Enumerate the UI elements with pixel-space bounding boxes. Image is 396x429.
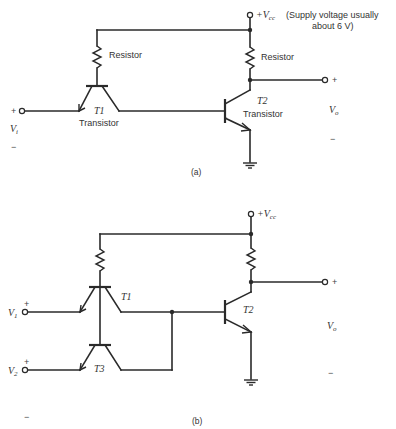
ground-icon: [243, 163, 257, 168]
input1-plus: +: [24, 299, 29, 309]
t3-name-b: T3: [94, 363, 105, 374]
resistor-left-label-a: Resistor: [109, 50, 142, 60]
v2-label: V2: [8, 365, 18, 378]
resistor-left-b: [96, 234, 104, 345]
output-minus-a: −: [330, 134, 335, 144]
vi-label: Vi: [10, 123, 18, 136]
circuit-diagram: +Vcc (Supply voltage usually about 6 V) …: [0, 0, 396, 429]
vcc-label-b: +Vcc: [257, 208, 277, 221]
t1-name-b: T1: [121, 291, 132, 302]
t2-desc-a: Transistor: [243, 109, 283, 119]
input-minus-b: −: [24, 412, 29, 422]
input2-terminal: [22, 367, 27, 372]
input1-terminal: [22, 309, 27, 314]
supply-note-line1: (Supply voltage usually: [286, 10, 379, 20]
t1-desc-a: Transistor: [79, 118, 119, 128]
vo-label-a: Vo: [329, 104, 339, 117]
figure-a: +Vcc (Supply voltage usually about 6 V) …: [10, 9, 379, 177]
vcc-terminal-a: [247, 12, 252, 17]
output-terminal-a: [322, 77, 327, 82]
input-minus-a: −: [11, 142, 16, 152]
vcc-terminal-b: [248, 211, 253, 216]
figure-b: +Vcc T1 T3 T2 + V1 + V2 − + Vo − (b): [8, 208, 337, 426]
t2-name-b: T2: [243, 304, 254, 315]
output-plus-a: +: [332, 75, 337, 85]
v1-label: V1: [8, 307, 18, 320]
output-plus-b: +: [332, 277, 337, 287]
output-minus-b: −: [328, 368, 333, 378]
input-terminal-a: [19, 108, 24, 113]
t1-name-a: T1: [94, 105, 105, 116]
junction-collectors-b: [170, 310, 174, 314]
caption-b: (b): [192, 416, 203, 426]
input2-plus: +: [24, 357, 29, 367]
input-plus-a: +: [11, 106, 16, 116]
resistor-left-a: [93, 30, 101, 86]
t2-name-a: T2: [257, 95, 268, 106]
resistor-right-label-a: Resistor: [261, 52, 294, 62]
vcc-label-a: +Vcc: [256, 9, 276, 22]
caption-a: (a): [191, 167, 202, 177]
supply-note-line2: about 6 V): [312, 21, 354, 31]
output-terminal-b: [322, 279, 327, 284]
vo-label-b: Vo: [327, 320, 337, 333]
ground-icon: [244, 380, 258, 385]
